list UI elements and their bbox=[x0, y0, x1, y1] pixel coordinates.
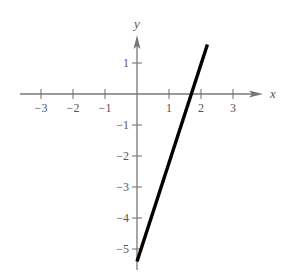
series-line bbox=[137, 44, 207, 261]
chart: −3−2−11231−1−2−3−4−5 x y bbox=[0, 0, 290, 275]
x-tick-label: 3 bbox=[230, 101, 236, 115]
x-tick-label: −3 bbox=[35, 101, 48, 115]
y-tick-label: −2 bbox=[116, 149, 129, 163]
y-tick-label: −1 bbox=[116, 118, 129, 132]
y-tick-label: −5 bbox=[116, 242, 129, 256]
x-tick-label: 1 bbox=[166, 101, 172, 115]
x-axis-label: x bbox=[269, 86, 276, 101]
y-tick-label: −3 bbox=[116, 180, 129, 194]
y-axis-label: y bbox=[132, 16, 140, 31]
x-tick-label: 2 bbox=[198, 101, 204, 115]
x-tick-label: −2 bbox=[67, 101, 80, 115]
axes bbox=[20, 35, 263, 270]
y-tick-label: 1 bbox=[123, 56, 129, 70]
x-tick-label: −1 bbox=[99, 101, 112, 115]
data-series bbox=[137, 44, 207, 261]
ticks: −3−2−11231−1−2−3−4−5 bbox=[35, 56, 236, 256]
y-tick-label: −4 bbox=[116, 211, 129, 225]
